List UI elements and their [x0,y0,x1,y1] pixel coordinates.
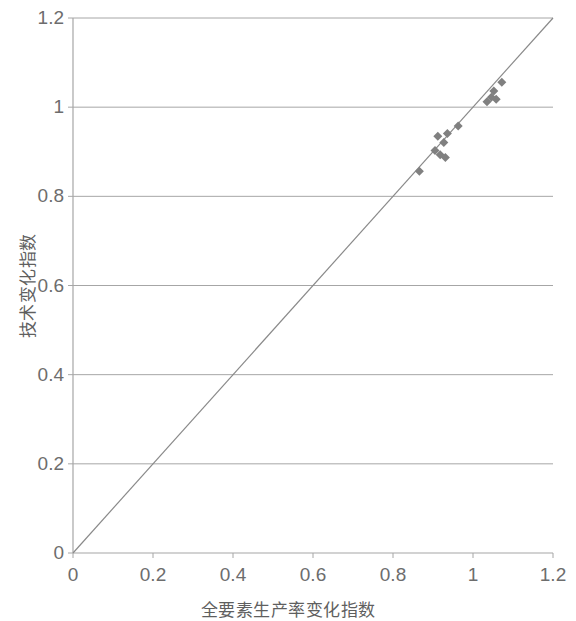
y-tick-label-0.4: 0.4 [38,365,64,384]
x-axis-title: 全要素生产率变化指数 [0,596,576,621]
data-point-0-2 [433,132,442,141]
y-axis-title: 技术变化指数 [14,233,39,338]
y-tick-label-0.8: 0.8 [38,186,64,205]
data-series-points [415,78,506,176]
data-point-0-7 [454,121,463,130]
x-tick-label-0.2: 0.2 [123,565,183,584]
y-tick-label-0.6: 0.6 [38,276,64,295]
y-tick-label-0: 0 [53,543,64,562]
x-tick-label-0.6: 0.6 [283,565,343,584]
y-tick-label-1.2: 1.2 [38,8,64,27]
x-tick-label-0.8: 0.8 [363,565,423,584]
gridlines [73,18,553,464]
x-tick-label-0: 0 [43,565,103,584]
x-tick-label-1: 1 [443,565,503,584]
data-point-0-4 [439,138,448,147]
data-point-0-0 [415,167,424,176]
x-tick-label-0.4: 0.4 [203,565,263,584]
y-tick-label-0.2: 0.2 [38,454,64,473]
y-tick-label-1: 1 [53,97,64,116]
x-tick-label-1.2: 1.2 [523,565,576,584]
data-point-0-6 [443,129,452,138]
